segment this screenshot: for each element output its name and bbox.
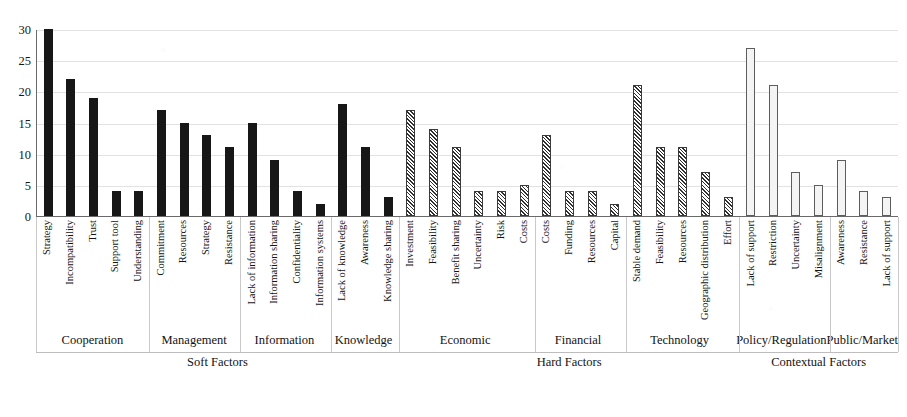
bar-slot [173, 30, 196, 216]
bar [837, 160, 846, 216]
bar-slot [490, 30, 513, 216]
bar-chart: 051015202530 StrategyIncompatibilityTrus… [0, 0, 907, 417]
category-label-slot: Geographic distribution [694, 218, 717, 328]
category-label-slot: Awareness [830, 218, 853, 328]
group-separator [739, 217, 740, 352]
category-label-slot: Resources [671, 218, 694, 328]
bar-slot [218, 30, 241, 216]
bar-slot [400, 30, 423, 216]
category-label: Resistance [224, 220, 235, 265]
bar [44, 29, 53, 216]
category-label-slot: Strategy [195, 218, 218, 328]
category-label-slot: Uncertainty [785, 218, 808, 328]
category-label: Information sharing [269, 220, 280, 304]
bar [134, 191, 143, 216]
category-label: Investment [405, 220, 416, 267]
category-label: Feasibility [655, 220, 666, 264]
category-label-slot: Lack of support [875, 218, 898, 328]
bar-slot [649, 30, 672, 216]
category-label: Capital [609, 220, 620, 250]
plot-area: 051015202530 [36, 30, 898, 217]
bar [746, 48, 755, 216]
bar [112, 191, 121, 216]
bar-slot [581, 30, 604, 216]
bar-slot [558, 30, 581, 216]
category-label: Restriction [768, 220, 779, 266]
bar-slot [422, 30, 445, 216]
category-label: Uncertainty [473, 220, 484, 270]
category-label-slot: Incompatibility [59, 218, 82, 328]
category-label-slot: Lack of information [240, 218, 263, 328]
category-label-slot: Information systems [308, 218, 331, 328]
category-label-slot: Lack of knowledge [331, 218, 354, 328]
category-label: Lack of information [246, 220, 257, 305]
category-label-slot: Awareness [354, 218, 377, 328]
bar [270, 160, 279, 216]
category-label: Misalignment [813, 220, 824, 278]
y-axis-tick-label: 5 [25, 178, 37, 193]
bar-slot [875, 30, 898, 216]
bar [384, 197, 393, 216]
bar-slot [196, 30, 219, 216]
bar [89, 98, 98, 216]
category-label-slot: Restriction [762, 218, 785, 328]
bar-slot [37, 30, 60, 216]
group-separator [830, 217, 831, 352]
bar-slot [785, 30, 808, 216]
group-label: Cooperation [36, 329, 149, 351]
category-label-slot: Uncertainty [467, 218, 490, 328]
category-label: Lack of support [745, 220, 756, 286]
group-separator [36, 217, 37, 352]
group-separator [331, 217, 332, 352]
bar-slot [60, 30, 83, 216]
group-separator [626, 217, 627, 352]
category-label: Benefit sharing [450, 220, 461, 284]
bar-slot [332, 30, 355, 216]
group-separator [149, 217, 150, 352]
bar-slot [354, 30, 377, 216]
bar-slot [830, 30, 853, 216]
bar [66, 79, 75, 216]
category-label-slot: Confidentiality [286, 218, 309, 328]
group-label: Financial [533, 329, 623, 351]
category-label-slot: Support tool [104, 218, 127, 328]
bar-slot [671, 30, 694, 216]
bar [202, 135, 211, 216]
group-separator [535, 217, 536, 352]
group-separator [240, 217, 241, 352]
group-labels-level1: CooperationManagementInformationKnowledg… [36, 329, 898, 351]
group-label: Policy/Regulation [736, 329, 826, 351]
bar-slot [467, 30, 490, 216]
category-label-slot: Resources [172, 218, 195, 328]
category-label: Incompatibility [65, 220, 76, 285]
bar [497, 191, 506, 216]
bar [678, 147, 687, 216]
bar [701, 172, 710, 216]
category-label-slot: Trust [81, 218, 104, 328]
category-label: Understanding [133, 220, 144, 282]
category-label: Resources [677, 220, 688, 263]
bar [316, 204, 325, 216]
category-label: Resistance [859, 220, 870, 265]
category-label: Uncertainty [791, 220, 802, 270]
category-label: Awareness [836, 220, 847, 265]
bar [656, 147, 665, 216]
bar-slot [853, 30, 876, 216]
category-label-slot: Risk [490, 218, 513, 328]
bar-slot [377, 30, 400, 216]
bar-slot [264, 30, 287, 216]
bar [452, 147, 461, 216]
group-label: Management [149, 329, 239, 351]
category-label-slot: Funding [558, 218, 581, 328]
category-label: Commitment [156, 220, 167, 275]
category-label: Costs [519, 220, 530, 243]
bar [429, 129, 438, 216]
category-label: Support tool [110, 220, 121, 272]
bar-slot [807, 30, 830, 216]
group-label: Economic [397, 329, 533, 351]
category-label: Confidentiality [292, 220, 303, 284]
bar-slot [105, 30, 128, 216]
category-label-slot: Strategy [36, 218, 59, 328]
bar-slot [82, 30, 105, 216]
category-label: Feasibility [428, 220, 439, 264]
